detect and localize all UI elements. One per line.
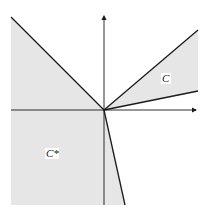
cone-diagram: C C* — [0, 0, 206, 220]
cone-label: C — [162, 72, 170, 84]
dual-cone-region — [11, 17, 125, 205]
dual-cone-label: C* — [46, 147, 59, 159]
